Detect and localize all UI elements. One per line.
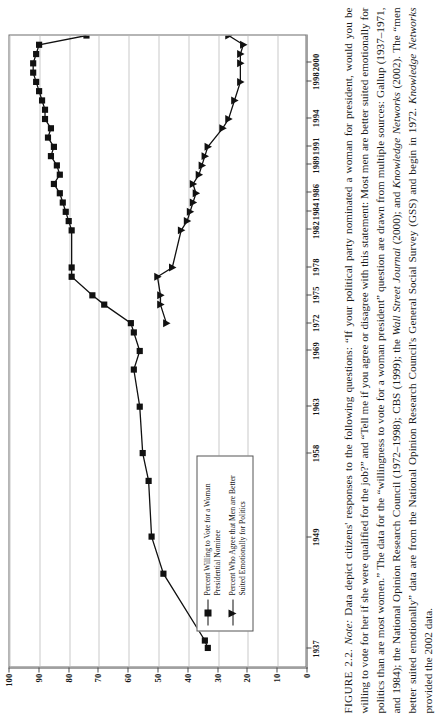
x-axis-tick-label: 1978 <box>310 258 320 276</box>
x-axis-tick-label: 1984 <box>310 202 320 220</box>
x-axis-tick-mark <box>306 405 311 406</box>
data-point-square <box>41 115 47 121</box>
data-point-square <box>201 637 207 643</box>
y-axis-tick-mark <box>246 667 247 672</box>
plot-frame <box>8 34 306 667</box>
x-axis-tick-label: 1982 <box>310 221 320 239</box>
chart-legend: Percent Willing to Vote for a Woman Pres… <box>196 455 253 631</box>
legend-entry: Percent Who Agree that Men are Better Su… <box>227 463 248 625</box>
data-point-square <box>50 180 56 186</box>
data-point-square <box>83 35 89 38</box>
data-point-square <box>50 143 56 149</box>
x-axis-tick-label: 1975 <box>310 286 320 304</box>
y-axis-tick-mark <box>68 667 69 672</box>
y-axis-tick-mark <box>127 667 128 672</box>
data-point-square <box>127 320 133 326</box>
x-axis-tick-mark <box>306 350 311 351</box>
y-axis-tick-mark <box>97 667 98 672</box>
y-axis-tick-mark <box>217 667 218 672</box>
x-axis-tick-mark <box>306 163 311 164</box>
data-point-square <box>44 134 50 140</box>
y-axis-tick-mark <box>38 667 39 672</box>
caption-italic-wsj: Wall Street Journal <box>389 247 401 335</box>
data-point-square <box>30 60 36 66</box>
data-series <box>30 35 211 651</box>
x-axis-tick-mark <box>306 322 311 323</box>
data-point-square <box>47 125 53 131</box>
caption-body-4: provided the 2002 data. <box>421 607 433 713</box>
x-axis-tick-mark <box>306 117 311 118</box>
y-axis-tick-label: 70 <box>92 673 102 719</box>
data-point-square <box>62 208 68 214</box>
data-point-square <box>33 78 39 84</box>
x-axis-tick-mark <box>306 266 311 267</box>
y-axis-tick-label: 40 <box>182 673 192 719</box>
data-point-square <box>47 153 53 159</box>
y-axis-tick-label: 60 <box>122 673 132 719</box>
y-axis-tick-label: 0 <box>301 673 311 719</box>
data-point-square <box>89 292 95 298</box>
caption-italic-kn-2: Knowledge Networks <box>405 7 417 104</box>
data-point-square <box>59 199 65 205</box>
legend-label: Percent Willing to Vote for a Woman Pres… <box>202 463 223 595</box>
y-axis-tick-label: 80 <box>63 673 73 719</box>
data-point-square <box>38 97 44 103</box>
data-point-square <box>130 329 136 335</box>
x-axis-tick-mark <box>306 61 311 62</box>
y-axis-tick-mark <box>306 667 307 672</box>
x-axis-tick-mark <box>306 294 311 295</box>
data-point-triangle <box>169 263 176 271</box>
y-axis-tick-mark <box>276 667 277 672</box>
legend-square-marker-icon <box>202 599 213 625</box>
plot-area <box>9 35 305 666</box>
figure-chart: 0102030405060708090100 19371949195819631… <box>0 0 330 719</box>
series-layer <box>9 35 305 666</box>
x-axis-tick-mark <box>306 229 311 230</box>
data-point-square <box>56 190 62 196</box>
data-point-square <box>101 301 107 307</box>
legend-triangle-marker-icon <box>227 599 238 625</box>
figure-caption: FIGURE 2.2. Note: Data depict citizens' … <box>340 7 435 713</box>
y-axis-tick-label: 50 <box>152 673 162 719</box>
caption-body-2: (2000); and <box>389 188 401 248</box>
y-axis-tick-mark <box>157 667 158 672</box>
x-axis-tick-mark <box>306 210 311 211</box>
y-axis-tick-label: 90 <box>33 673 43 719</box>
x-axis-tick-label: 1989 <box>310 155 320 173</box>
x-axis-tick-label: 1998 <box>310 72 320 90</box>
x-axis-tick-label: 1972 <box>310 314 320 332</box>
data-point-square <box>136 347 142 353</box>
data-point-square <box>148 533 154 539</box>
y-axis-tick-label: 30 <box>212 673 222 719</box>
y-axis-tick-mark <box>187 667 188 672</box>
data-point-square <box>145 477 151 483</box>
data-point-square <box>30 69 36 75</box>
data-point-square <box>68 264 74 270</box>
data-point-triangle <box>163 319 170 327</box>
x-axis-tick-label: 1986 <box>310 183 320 201</box>
x-axis-tick-mark <box>306 647 311 648</box>
data-point-square <box>65 218 71 224</box>
y-axis-tick-label: 10 <box>271 673 281 719</box>
data-point-triangle <box>195 170 202 178</box>
figure-number: FIGURE 2.2. <box>341 648 353 713</box>
x-axis-tick-mark <box>306 452 311 453</box>
data-point-triangle <box>183 217 190 225</box>
series-line <box>33 35 208 647</box>
x-axis-tick-label: 1963 <box>310 397 320 415</box>
data-point-square <box>36 41 42 47</box>
data-point-square <box>139 449 145 455</box>
data-point-square <box>68 227 74 233</box>
figure-note-label: Note: <box>341 619 353 644</box>
data-point-square <box>136 403 142 409</box>
data-point-square <box>56 171 62 177</box>
y-axis-tick-label: 20 <box>241 673 251 719</box>
data-point-square <box>160 570 166 576</box>
data-point-square <box>53 162 59 168</box>
x-axis-tick-mark <box>306 80 311 81</box>
y-axis-tick-label: 100 <box>3 673 13 719</box>
data-point-square <box>204 644 210 650</box>
data-point-triangle <box>225 115 232 123</box>
x-axis-tick-mark <box>306 191 311 192</box>
x-axis-tick-label: 1958 <box>310 444 320 462</box>
